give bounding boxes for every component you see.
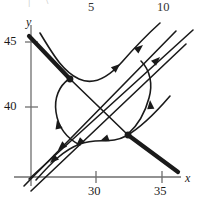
phase-portrait-figure: 45 40 30 35 x y 5 10 | \: [0, 0, 198, 209]
outer-diagonal-lower: [31, 44, 186, 191]
x-tick-label-30: 30: [88, 185, 101, 198]
upper-branch-hyperbola: [40, 23, 160, 81]
top-label-5: 5: [88, 1, 94, 14]
cropped-glyph-remnant-right: \: [45, 0, 48, 8]
right-branch-hyperbola: [128, 61, 151, 134]
stable-separatrix-upper-arm: [29, 36, 70, 79]
top-label-10: 10: [157, 1, 170, 14]
phase-plane-plot: [0, 0, 198, 209]
arrow-lower-branch-2: [99, 135, 110, 145]
y-tick-label-45: 45: [4, 35, 17, 48]
x-tick-label-35: 35: [154, 185, 167, 198]
x-axis-label: x: [185, 172, 190, 184]
y-tick-label-40: 40: [4, 100, 17, 113]
node-marker-upper-left: [67, 76, 74, 83]
stable-separatrix-lower-arm: [128, 135, 178, 172]
cropped-glyph-remnant-left: |: [28, 0, 30, 8]
axis-ticks: [25, 42, 162, 183]
y-axis-label: y: [26, 16, 31, 28]
node-marker-lower-right: [125, 132, 132, 139]
